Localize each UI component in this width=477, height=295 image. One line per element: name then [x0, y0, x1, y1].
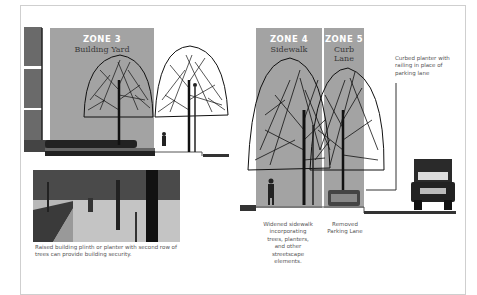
tree-icon	[84, 55, 153, 145]
pedestrian-icon	[162, 132, 166, 146]
street-photo	[33, 170, 180, 242]
truck-icon	[411, 159, 455, 210]
pedestrian-icon	[268, 179, 274, 206]
callout-leader-line	[366, 83, 396, 190]
photo-caption: Raised building plinth or planter with s…	[35, 244, 185, 259]
sidewalk-caption: Widened sidewalk incorporating trees, pl…	[263, 221, 313, 265]
parking-caption: Removed Parking Lane	[325, 221, 365, 236]
tree-icon	[248, 58, 330, 205]
callout-text: Curbed planter with railing in place of …	[395, 55, 457, 77]
building-facade-icon	[24, 27, 42, 152]
